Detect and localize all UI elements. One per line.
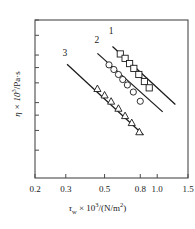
- data-point-square: [136, 71, 142, 77]
- data-point-triangle: [101, 91, 108, 97]
- data-point-triangle: [115, 105, 122, 111]
- data-point-circle: [130, 89, 136, 95]
- data-point-circle: [124, 82, 130, 88]
- y-axis-label-units: /Pa·s: [12, 71, 22, 89]
- data-point-triangle: [108, 98, 115, 104]
- data-point-square: [146, 85, 152, 91]
- data-point-triangle: [94, 85, 101, 91]
- y-axis-label-exponent: 3: [10, 89, 17, 92]
- data-point-square: [131, 65, 137, 71]
- data-point-circle: [115, 71, 121, 77]
- x-axis-label-close: ): [123, 203, 126, 213]
- chart-figure: 0.20.30.50.81.01.5123 η × 103/Pa·s τw × …: [0, 0, 195, 229]
- x-tick-label: 0.2: [29, 184, 40, 194]
- x-axis-label-units: /(N/m: [99, 203, 121, 213]
- data-point-square: [141, 78, 147, 84]
- y-axis-label: η × 103/Pa·s: [10, 54, 22, 134]
- curve-label-3: 3: [62, 48, 67, 58]
- x-tick-label: 1.0: [152, 184, 164, 194]
- x-tick-label: 0.3: [60, 184, 72, 194]
- curve-label-1: 1: [109, 26, 114, 36]
- data-point-circle: [111, 66, 117, 72]
- data-point-circle: [106, 62, 112, 68]
- x-tick-label: 0.5: [99, 184, 111, 194]
- y-axis-label-symbol: η × 10: [12, 93, 22, 117]
- data-point-circle: [120, 76, 126, 82]
- log-log-plot: 0.20.30.50.81.01.5123: [0, 0, 195, 229]
- x-axis-label: τw × 103/(N/m2): [0, 201, 195, 215]
- x-tick-label: 1.5: [182, 184, 194, 194]
- data-point-circle: [137, 98, 143, 104]
- curve-label-2: 2: [95, 35, 100, 45]
- x-tick-label: 0.8: [135, 184, 147, 194]
- series-3: [67, 64, 143, 135]
- x-axis-label-mid: × 10: [77, 203, 96, 213]
